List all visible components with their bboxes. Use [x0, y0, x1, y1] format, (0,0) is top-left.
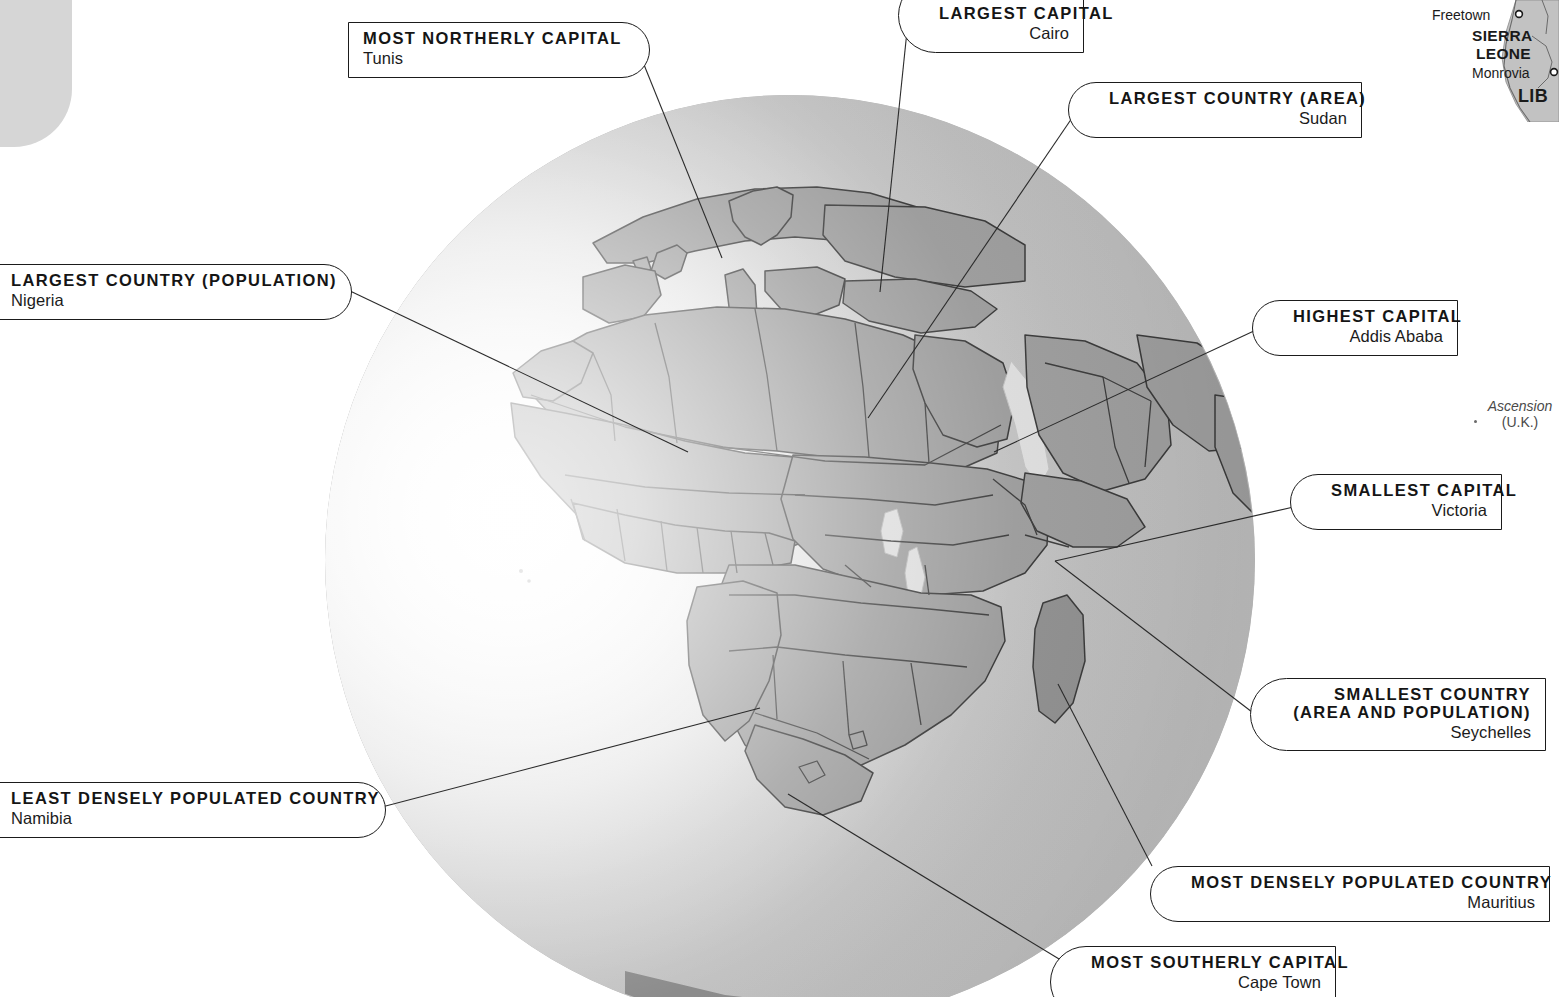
globe	[325, 95, 1255, 997]
callout-smallest-country[interactable]: SMALLEST COUNTRY (AREA AND POPULATION) S…	[1250, 678, 1546, 751]
callout-value: Mauritius	[1191, 894, 1535, 912]
callout-title: SMALLEST CAPITAL	[1331, 482, 1487, 500]
callout-value: Cape Town	[1091, 974, 1321, 992]
island-marker-dot	[1474, 420, 1477, 423]
callout-value: Tunis	[363, 50, 615, 68]
island-name: Ascension	[1480, 398, 1559, 414]
inset-country-label-liberia: LIB	[1518, 86, 1548, 107]
capital-marker-monrovia	[1551, 69, 1558, 76]
inset-country-label-sierra-leone-2: LEONE	[1476, 45, 1531, 63]
island-label-ascension: Ascension (U.K.)	[1480, 398, 1559, 430]
inset-country-label-sierra-leone-1: SIERRA	[1472, 27, 1532, 45]
callout-title-line2: (AREA AND POPULATION)	[1291, 704, 1531, 722]
callout-largest-country-area[interactable]: LARGEST COUNTRY (AREA) Sudan	[1068, 82, 1362, 138]
callout-title: LARGEST COUNTRY (POPULATION)	[11, 272, 317, 290]
callout-least-densely-populated-country[interactable]: LEAST DENSELY POPULATED COUNTRY Namibia	[0, 782, 386, 838]
callout-most-southerly-capital[interactable]: MOST SOUTHERLY CAPITAL Cape Town	[1050, 946, 1336, 997]
callout-title: LEAST DENSELY POPULATED COUNTRY	[11, 790, 351, 808]
globe-landmass	[325, 95, 1255, 997]
callout-title: HIGHEST CAPITAL	[1293, 308, 1443, 326]
callout-value: Seychelles	[1291, 724, 1531, 742]
callout-value: Cairo	[939, 25, 1069, 43]
callout-highest-capital[interactable]: HIGHEST CAPITAL Addis Ababa	[1252, 300, 1458, 356]
callout-title: LARGEST COUNTRY (AREA)	[1109, 90, 1347, 108]
callout-value: Addis Ababa	[1293, 328, 1443, 346]
callout-title: MOST SOUTHERLY CAPITAL	[1091, 954, 1321, 972]
callout-smallest-capital[interactable]: SMALLEST CAPITAL Victoria	[1290, 474, 1502, 530]
inset-city-label-freetown: Freetown	[1432, 7, 1490, 23]
callout-value: Nigeria	[11, 292, 317, 310]
callout-value: Namibia	[11, 810, 351, 828]
land-polygons	[511, 187, 1255, 997]
capital-marker-freetown	[1516, 11, 1523, 18]
globe-sphere	[325, 95, 1255, 997]
callout-title: LARGEST CAPITAL	[939, 5, 1069, 23]
corner-decoration-block	[0, 0, 72, 147]
inset-city-label-monrovia: Monrovia	[1472, 65, 1530, 81]
callout-largest-capital[interactable]: LARGEST CAPITAL Cairo	[898, 0, 1084, 53]
callout-most-densely-populated-country[interactable]: MOST DENSELY POPULATED COUNTRY Mauritius	[1150, 866, 1550, 922]
callout-largest-country-population[interactable]: LARGEST COUNTRY (POPULATION) Nigeria	[0, 264, 352, 320]
callout-title: MOST DENSELY POPULATED COUNTRY	[1191, 874, 1535, 892]
callout-title-line1: SMALLEST COUNTRY	[1291, 686, 1531, 704]
map-infographic: MOST NORTHERLY CAPITAL Tunis LARGEST COU…	[0, 0, 1559, 997]
inset-map-west-africa: Freetown SIERRA LEONE Monrovia LIB	[1420, 0, 1559, 122]
callout-value: Victoria	[1331, 502, 1487, 520]
callout-title: MOST NORTHERLY CAPITAL	[363, 30, 615, 48]
callout-value: Sudan	[1109, 110, 1347, 128]
island-sovereignty: (U.K.)	[1480, 414, 1559, 430]
callout-most-northerly-capital[interactable]: MOST NORTHERLY CAPITAL Tunis	[348, 22, 650, 78]
